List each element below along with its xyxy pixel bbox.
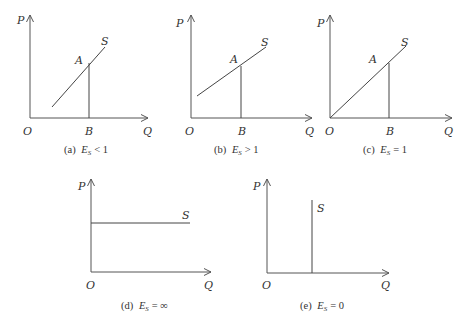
y-axis-label: P — [16, 14, 25, 27]
foot-label: B — [385, 125, 394, 138]
curve-label: S — [401, 36, 409, 49]
panel-a: P S A O B Q (a) ES< 1 — [16, 14, 152, 157]
origin-label: O — [185, 125, 194, 138]
panel-e: P S O Q (e) ES= 0 — [252, 179, 390, 313]
x-axis-label: Q — [444, 125, 453, 138]
origin-label: O — [262, 279, 271, 292]
caption: (c) ES= 1 — [363, 144, 407, 157]
supply-curve — [330, 46, 406, 118]
origin-label: O — [23, 125, 32, 138]
panel-b: P S A O B Q (b) ES> 1 — [175, 15, 314, 157]
supply-elasticity-figure: P S A O B Q (a) ES< 1 P S A O B Q (b) ES… — [0, 0, 464, 322]
x-axis-label: Q — [381, 279, 390, 292]
caption: (a) ES< 1 — [64, 144, 108, 157]
caption: (d) ES= ∞ — [121, 300, 168, 313]
panel-d: P S O Q (d) ES= ∞ — [77, 179, 213, 313]
caption: (b) ES> 1 — [214, 144, 259, 157]
point-label: A — [368, 53, 377, 66]
x-axis-label: Q — [204, 279, 213, 292]
foot-label: B — [84, 125, 93, 138]
foot-label: B — [237, 125, 246, 138]
point-label: A — [229, 53, 238, 66]
origin-label: O — [325, 125, 334, 138]
curve-label: S — [317, 202, 325, 215]
point-label: A — [74, 54, 83, 67]
curve-label: S — [261, 36, 269, 49]
x-axis-label: Q — [143, 125, 152, 138]
x-axis-label: Q — [305, 125, 314, 138]
curve-label: S — [182, 209, 190, 222]
y-axis-label: P — [252, 180, 261, 193]
panel-c: P S A O B Q (c) ES= 1 — [316, 15, 453, 157]
y-axis-label: P — [175, 17, 184, 30]
y-axis-label: P — [316, 17, 325, 30]
curve-label: S — [101, 35, 109, 48]
y-axis-label: P — [77, 180, 86, 193]
origin-label: O — [86, 279, 95, 292]
caption: (e) ES= 0 — [300, 300, 344, 313]
